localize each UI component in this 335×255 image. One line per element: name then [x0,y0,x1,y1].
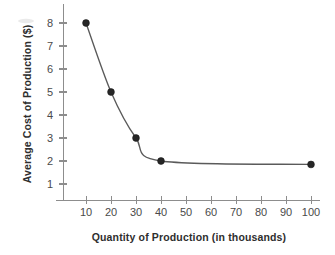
y-tick-label: 1 [47,178,53,190]
x-tick-label: 10 [80,206,92,218]
series-line [86,23,311,164]
y-axis-title: Average Cost of Production ($) [21,25,33,184]
axis-group [56,4,320,201]
x-tick-label: 40 [155,206,167,218]
y-tick-label: 5 [47,86,53,98]
line-chart: 8 7 6 5 4 3 2 1 10 20 30 40 50 [0,0,335,255]
x-tick-label: 20 [105,206,117,218]
data-point: 30, 3 [133,135,140,142]
x-axis-tick-labels: 10 20 30 40 50 60 70 80 90 100 [80,206,320,218]
x-tick-label: 50 [180,206,192,218]
y-tick-label: 4 [47,109,53,121]
x-tick-label: 100 [302,206,320,218]
data-point: 10, 8 [83,20,90,27]
x-axis-title: Quantity of Production (in thousands) [92,231,287,243]
x-tick-label: 30 [130,206,142,218]
chart-figure: 8 7 6 5 4 3 2 1 10 20 30 40 50 [0,0,335,255]
y-tick-label: 3 [47,132,53,144]
data-point: 20, 5 [108,89,115,96]
x-tick-label: 80 [255,206,267,218]
series-markers: 10, 820, 530, 340, 2100, 1.85 [83,20,315,168]
x-tick-label: 60 [205,206,217,218]
y-tick-label: 2 [47,155,53,167]
y-tick-label: 8 [47,17,53,29]
data-point: 100, 1.85 [308,161,315,168]
x-tick-label: 70 [230,206,242,218]
y-tick-label: 6 [47,63,53,75]
scan-artifact [18,19,34,23]
y-tick-label: 7 [47,40,53,52]
data-point: 40, 2 [158,158,165,165]
data-series-group: 10, 820, 530, 340, 2100, 1.85 [83,20,315,168]
x-tick-label: 90 [280,206,292,218]
y-axis-tick-labels: 8 7 6 5 4 3 2 1 [47,17,53,190]
